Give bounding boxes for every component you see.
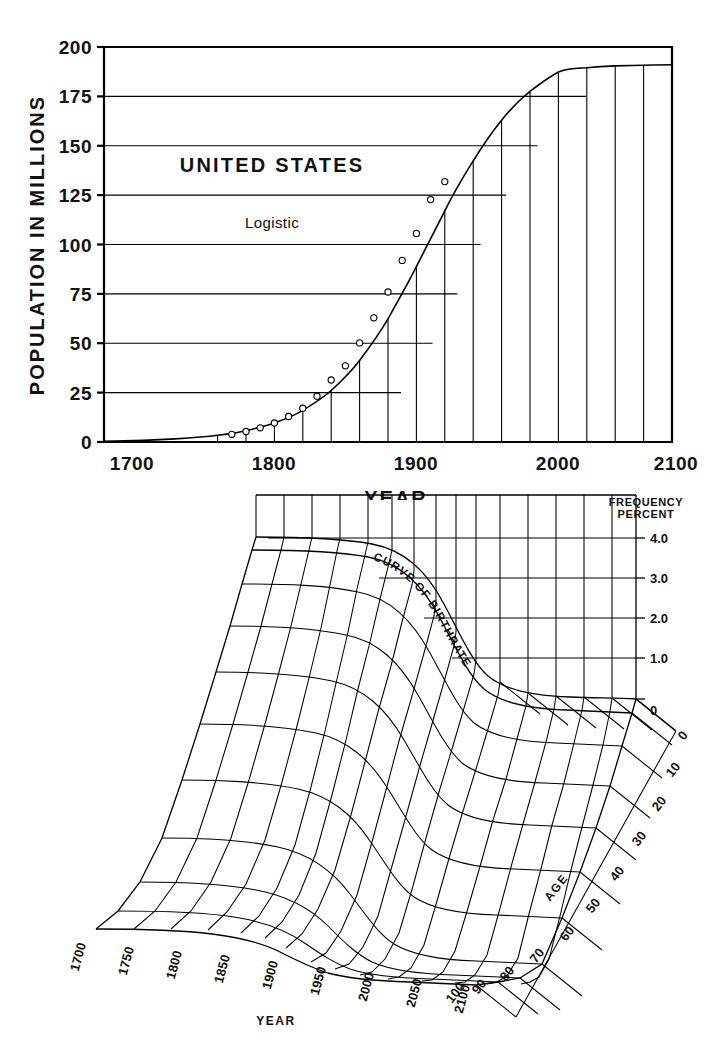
panel-subtitle: Logistic [245, 214, 299, 231]
y-tick-label: 25 [70, 383, 92, 404]
x-tick-label: 1800 [252, 453, 296, 474]
age-tick-label: 40 [607, 863, 628, 884]
x-tick-label: 2000 [536, 453, 580, 474]
z-axis-tick-labels: 4.0 3.0 2.0 1.0 0 [650, 531, 668, 718]
age-tick-label: 10 [663, 759, 684, 780]
y-tick-label: 200 [59, 37, 92, 58]
y-tick-label: 125 [59, 185, 92, 206]
z-tick-label: 3.0 [650, 571, 668, 586]
age-tick-label: 30 [629, 828, 650, 849]
surface-mesh-year-lines [96, 537, 636, 985]
year-axis-title: YEAR [256, 1014, 296, 1028]
z-tick-label: 1.0 [650, 651, 668, 666]
x-tick-label: 1900 [394, 453, 438, 474]
population-logistic-chart: 200 175 150 125 100 75 50 25 0 1700 1800… [0, 0, 725, 500]
z-axis-title-line2: PERCENT [618, 508, 675, 520]
y-axis-title: POPULATION IN MILLIONS [26, 95, 48, 395]
year-tick-label: 1900 [259, 959, 281, 991]
y-tick-label: 0 [81, 432, 92, 453]
y-tick-label: 175 [59, 86, 92, 107]
year-tick-label: 2000 [355, 971, 377, 1003]
y-tick-label: 75 [70, 284, 92, 305]
y-tick-label: 50 [70, 333, 92, 354]
age-tick-label: 60 [557, 923, 578, 944]
x-tick-label: 1700 [110, 453, 154, 474]
year-tick-label: 1750 [115, 945, 137, 977]
year-tick-label: 1850 [211, 953, 233, 985]
age-tick-label: 70 [527, 945, 548, 966]
x-tick-label: 2100 [654, 453, 698, 474]
age-tick-label: 0 [675, 728, 691, 743]
panel-title: UNITED STATES [180, 154, 365, 176]
horizontal-gridlines [104, 96, 586, 392]
age-tick-label: 50 [583, 895, 604, 916]
year-tick-label: 1800 [163, 949, 185, 981]
birthrate-annotation-text: CURVE OF BIRTHRATE [372, 551, 474, 670]
x-tick-labels: 1700 1800 1900 2000 2100 [110, 453, 698, 474]
z-tick-label: 2.0 [650, 611, 668, 626]
age-tick-label: 20 [649, 793, 670, 814]
vertical-drop-lines [218, 65, 672, 442]
y-tick-labels: 200 175 150 125 100 75 50 25 0 [59, 37, 92, 453]
figure-root: 200 175 150 125 100 75 50 25 0 1700 1800… [0, 0, 725, 1057]
z-axis-ticks [636, 538, 645, 699]
year-tick-label: 1700 [67, 941, 89, 973]
y-tick-label: 100 [59, 235, 92, 256]
z-tick-label: 4.0 [650, 531, 668, 546]
age-distribution-surface-chart: 4.0 3.0 2.0 1.0 0 FREQUENCY PERCENT 0 10… [0, 492, 725, 1052]
year-tick-label: 1950 [307, 965, 329, 997]
y-tick-label: 150 [59, 136, 92, 157]
z-axis-title: FREQUENCY PERCENT [609, 496, 684, 520]
z-axis-title-line1: FREQUENCY [609, 496, 684, 508]
z-tick-label: 0 [650, 703, 657, 718]
